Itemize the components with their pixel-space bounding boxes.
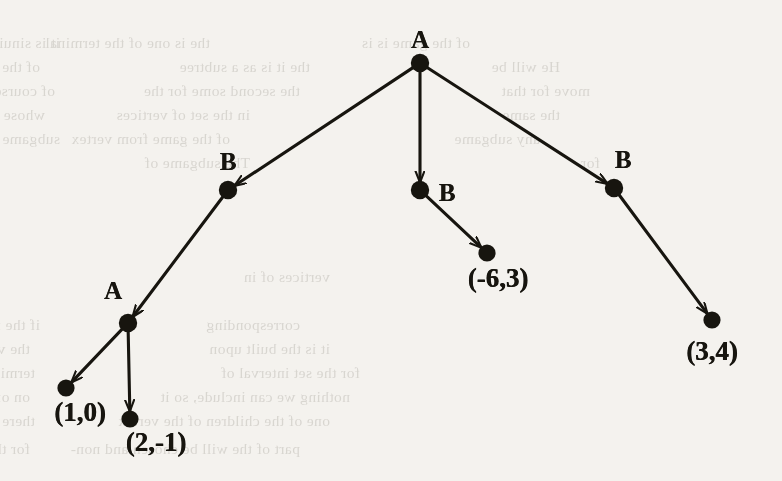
terminal-node [478, 244, 495, 261]
tree-edge [72, 328, 123, 381]
terminal-node [121, 410, 138, 427]
figure-canvas: it is sinuilar. Supposethe is one of the… [0, 0, 782, 481]
tree-edge [618, 194, 706, 313]
player-label: B [615, 146, 632, 174]
player-label: A [411, 26, 429, 54]
terminal-node [703, 311, 720, 328]
payoff-label: (2,-1) [126, 427, 187, 458]
decision-node [605, 179, 623, 197]
tree-nodes [57, 54, 720, 428]
tree-edges [72, 67, 707, 410]
player-label: A [104, 277, 122, 305]
decision-node [411, 181, 429, 199]
tree-edge [426, 67, 607, 183]
decision-node [119, 314, 137, 332]
payoff-label: (3,4) [686, 336, 738, 367]
payoff-label: (1,0) [54, 397, 106, 428]
game-tree-graph [0, 0, 782, 481]
tree-edge [128, 330, 130, 410]
tree-edge [235, 67, 414, 185]
player-label: B [439, 179, 456, 207]
decision-node [411, 54, 429, 72]
terminal-node [57, 379, 74, 396]
payoff-label: (-6,3) [468, 263, 529, 294]
decision-node [219, 181, 237, 199]
tree-edge [133, 196, 223, 316]
player-label: B [220, 148, 237, 176]
